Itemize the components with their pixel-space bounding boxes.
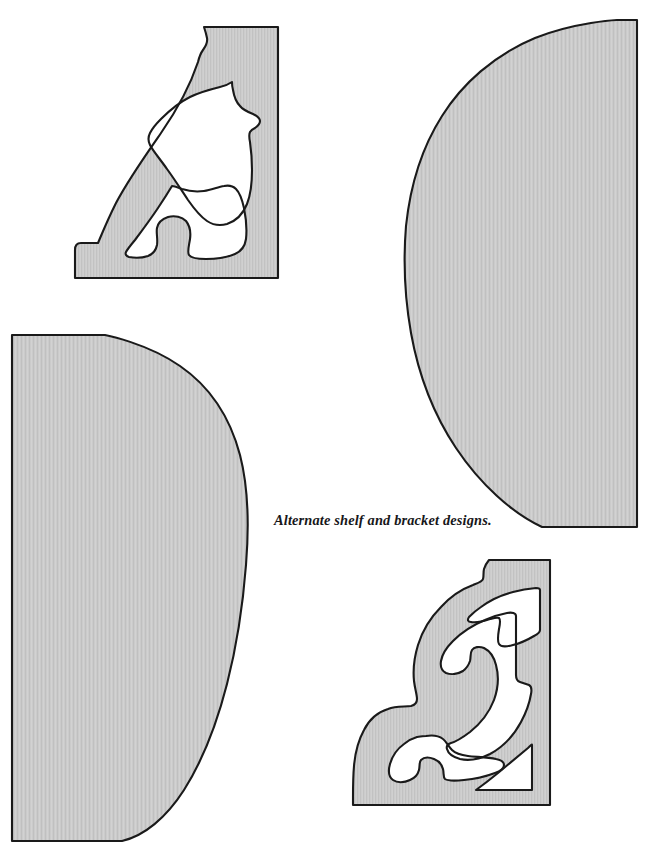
bracket-designs-illustration bbox=[0, 0, 651, 857]
bracket-bottom-right bbox=[0, 0, 651, 857]
bracket-bottom-right-fill bbox=[0, 0, 651, 857]
figure-root: Alternate shelf and bracket designs. bbox=[0, 0, 651, 857]
